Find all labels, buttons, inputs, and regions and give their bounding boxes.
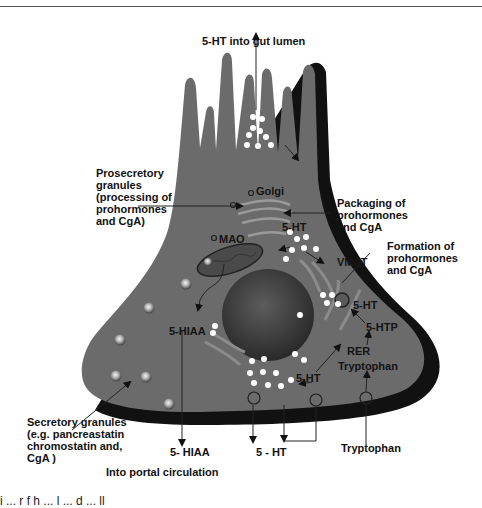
label-5hiaa-out: 5- HIAA bbox=[170, 446, 210, 458]
label-rer: RER bbox=[347, 345, 370, 357]
label-vmat: VMAT bbox=[337, 256, 367, 268]
label-5ht-upper: 5-HT bbox=[282, 221, 306, 233]
label-5hiaa-internal: 5-HIAA bbox=[169, 325, 206, 337]
label-5ht-into-gut-lumen: 5-HT into gut lumen bbox=[202, 35, 305, 47]
label-tryptophan-external: Tryptophan bbox=[341, 442, 401, 454]
label-portal-circulation: Into portal circulation bbox=[106, 466, 218, 478]
label-golgi: Golgi bbox=[256, 185, 284, 197]
label-5htp: 5-HTP bbox=[366, 321, 398, 333]
figure-caption-clipped: i ... r f h ... l ... d ... ll bbox=[0, 494, 105, 508]
label-packaging: Packaging of prohormones and CgA bbox=[337, 197, 408, 233]
label-formation: Formation of prohormones and CgA bbox=[387, 240, 458, 276]
label-secretory-granules: Secretory granules (e.g. pancreastatin c… bbox=[27, 416, 127, 464]
label-prosecretory-granules: Prosecretory granules (processing of pro… bbox=[96, 167, 172, 227]
label-5ht-right: 5-HT bbox=[353, 299, 377, 311]
label-5ht-out: 5 - HT bbox=[256, 446, 287, 458]
label-mao: MAO bbox=[219, 233, 245, 245]
label-5ht-lower: 5-HT bbox=[296, 372, 320, 384]
label-tryptophan-internal: Tryptophan bbox=[338, 360, 398, 372]
